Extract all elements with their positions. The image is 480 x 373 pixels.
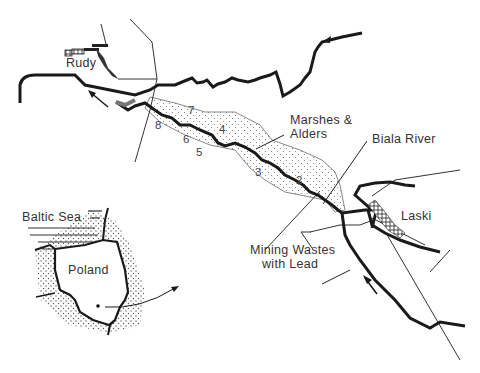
site-number: 8 (155, 119, 161, 131)
label-mining-wastes-1: Mining Wastes (250, 243, 335, 258)
flow-arrow-icon (88, 90, 108, 107)
site-number: 3 (255, 166, 261, 178)
location-dot-icon (96, 304, 100, 308)
label-laski: Laski (401, 209, 432, 224)
label-marshes: Marshes & (290, 113, 352, 128)
biala-river-map: Rudy Marshes & Alders Biala River Laski … (0, 0, 480, 373)
site-number: 4 (219, 123, 225, 135)
site-number: 5 (196, 146, 202, 158)
site-number: 6 (183, 133, 189, 145)
label-baltic-sea: Baltic Sea (22, 210, 81, 225)
label-alders: Alders (290, 127, 327, 142)
label-mining-wastes-2: with Lead (262, 257, 318, 272)
laski-rivers (342, 182, 465, 328)
flow-arrow-icon (322, 36, 331, 43)
site-number: 2 (296, 174, 302, 186)
label-rudy: Rudy (66, 56, 96, 71)
site-number: 7 (188, 104, 194, 116)
label-biala-river: Biala River (372, 132, 436, 147)
label-poland: Poland (68, 263, 109, 278)
